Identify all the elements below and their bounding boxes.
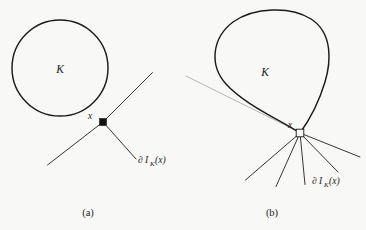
panel-b-set-boundary-teardrop	[215, 10, 329, 133]
panel-a-set-label: K	[55, 63, 65, 75]
panel-a-normal-cone-annotation: ∂ I K (x)	[138, 155, 166, 168]
panel-b-caption: (b)	[266, 207, 279, 219]
panel-a-annotation-indicator: I	[144, 155, 149, 165]
panel-a-point-label: x	[87, 111, 93, 121]
panel-b-normal-cone-annotation: ∂ I K (x)	[312, 176, 340, 189]
panel-a-annotation-partial: ∂	[138, 155, 143, 165]
panel-a-point-x-marker	[100, 119, 107, 126]
panel-b-annotation-indicator: I	[318, 176, 323, 186]
panel-b-annotation-partial: ∂	[312, 176, 317, 186]
panel-b-normal-ray-1	[246, 133, 301, 180]
figure-container: K x ∂ I K (x) (a)	[0, 0, 366, 230]
panel-a-normal-ray-lower-right	[103, 122, 136, 159]
panel-a: K x ∂ I K (x) (a)	[12, 20, 166, 219]
panel-b-point-x-marker	[296, 129, 304, 137]
panel-b-annotation-argument: (x)	[329, 176, 340, 187]
panel-a-normal-ray-upper	[103, 73, 153, 123]
panel-b-normal-ray-5	[300, 133, 360, 157]
panel-b-normal-ray-4	[300, 133, 338, 172]
panel-b-faint-construction-ray	[186, 76, 299, 132]
panel-a-tangent-ray-lower-left	[48, 122, 104, 165]
figure-svg: K x ∂ I K (x) (a)	[0, 0, 366, 230]
panel-b-normal-ray-2	[276, 133, 300, 187]
panel-b-set-label: K	[260, 66, 270, 78]
panel-b-normal-ray-3	[300, 133, 305, 185]
panel-b: K x ∂ I K (x) (b)	[186, 10, 360, 219]
panel-a-annotation-argument: (x)	[155, 155, 166, 166]
panel-a-caption: (a)	[82, 207, 94, 219]
panel-b-point-label: x	[287, 120, 293, 130]
